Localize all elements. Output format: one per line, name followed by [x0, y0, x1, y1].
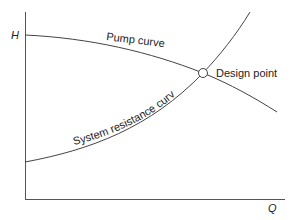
- x-axis-label: Q: [268, 202, 277, 214]
- design-point-marker: [199, 69, 208, 78]
- system-resistance-curve-label: System resistance curve: [0, 0, 177, 147]
- y-axis-label: H: [11, 29, 19, 41]
- pump-system-diagram: H Q Pump curve System resistance curve D…: [0, 0, 299, 220]
- design-point-label: Design point: [216, 67, 277, 79]
